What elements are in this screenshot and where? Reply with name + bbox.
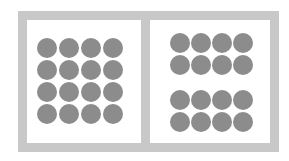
circle-dot bbox=[103, 38, 123, 58]
circle-dot bbox=[191, 33, 211, 53]
circle-dot bbox=[37, 104, 57, 124]
circle-dot bbox=[212, 55, 232, 75]
circle-dot bbox=[191, 112, 211, 132]
circle-dot bbox=[103, 82, 123, 102]
circle-dot bbox=[81, 60, 101, 80]
circle-dot bbox=[103, 60, 123, 80]
circle-dot bbox=[233, 112, 253, 132]
circle-dot bbox=[170, 90, 190, 110]
circle-dot bbox=[170, 112, 190, 132]
circle-dot bbox=[37, 82, 57, 102]
circle-dot bbox=[212, 33, 232, 53]
circle-dot bbox=[81, 38, 101, 58]
circle-dot bbox=[37, 38, 57, 58]
circle-dot bbox=[170, 55, 190, 75]
circle-dot bbox=[59, 82, 79, 102]
circle-dot bbox=[59, 38, 79, 58]
circle-dot bbox=[191, 90, 211, 110]
circle-dot bbox=[103, 104, 123, 124]
circle-dot bbox=[170, 33, 190, 53]
circle-dot bbox=[233, 90, 253, 110]
circle-dot bbox=[59, 104, 79, 124]
circle-dot bbox=[233, 33, 253, 53]
circle-dot bbox=[59, 60, 79, 80]
circle-dot bbox=[233, 55, 253, 75]
circle-dot bbox=[37, 60, 57, 80]
circle-dot bbox=[212, 112, 232, 132]
circle-dot bbox=[212, 90, 232, 110]
circle-dot bbox=[81, 104, 101, 124]
circle-dot bbox=[191, 55, 211, 75]
circle-dot bbox=[81, 82, 101, 102]
